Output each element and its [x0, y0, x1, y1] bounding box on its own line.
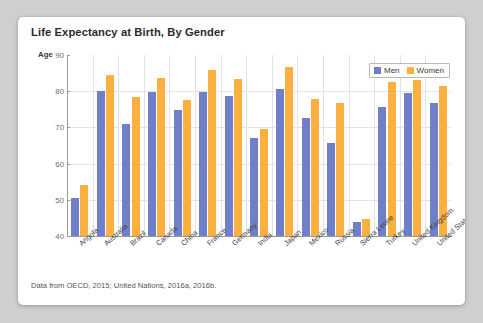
bar-women[interactable] [336, 103, 344, 236]
legend-swatch-icon [407, 67, 414, 74]
bar-women[interactable] [132, 97, 140, 236]
bar-group [272, 55, 298, 236]
bar-group [400, 55, 426, 236]
bar-men[interactable] [174, 110, 182, 236]
gridline-vertical [144, 55, 145, 236]
gridline-vertical [374, 55, 375, 236]
y-tick-label: 40 [55, 232, 64, 241]
y-tick-mark [67, 127, 70, 128]
bar-men[interactable] [97, 91, 105, 236]
bar-women[interactable] [413, 80, 421, 236]
y-tick-mark [67, 91, 70, 92]
bar-group [221, 55, 247, 236]
gridline-vertical [400, 55, 401, 236]
y-tick-label: 60 [55, 159, 64, 168]
bar-group [349, 55, 375, 236]
bar-men[interactable] [276, 89, 284, 236]
bar-group [297, 55, 323, 236]
y-axis-tick-labels: 908070605040 [36, 55, 64, 236]
y-tick-mark [67, 236, 70, 237]
bar-women[interactable] [208, 70, 216, 236]
legend-label: Men [384, 66, 400, 75]
chart-card: Life Expectancy at Birth, By Gender Age … [18, 17, 465, 305]
chart-legend: MenWomen [369, 63, 450, 78]
bar-men[interactable] [404, 93, 412, 236]
y-tick-label: 50 [55, 195, 64, 204]
bar-group [246, 55, 272, 236]
gridline-vertical [349, 55, 350, 236]
y-tick-label: 90 [55, 51, 64, 60]
bar-group [323, 55, 349, 236]
bar-group [93, 55, 119, 236]
x-axis-tick-labels: AngolaAustraliaBrazilCanadaChinaFranceGe… [67, 239, 452, 299]
bar-women[interactable] [260, 129, 268, 236]
bar-women[interactable] [106, 75, 114, 236]
gridline-vertical [195, 55, 196, 236]
gridline-vertical [93, 55, 94, 236]
legend-item-women[interactable]: Women [407, 66, 444, 75]
y-tick-mark [67, 55, 70, 56]
gridline-vertical [221, 55, 222, 236]
legend-item-men[interactable]: Men [374, 66, 400, 75]
y-tick-mark [67, 164, 70, 165]
bar-men[interactable] [71, 198, 79, 236]
bar-men[interactable] [225, 96, 233, 236]
bar-women[interactable] [183, 100, 191, 236]
y-tick-label: 80 [55, 87, 64, 96]
bar-group [144, 55, 170, 236]
plot-area [67, 55, 451, 236]
legend-label: Women [417, 66, 444, 75]
bar-women[interactable] [80, 185, 88, 236]
bar-women[interactable] [157, 78, 165, 236]
legend-swatch-icon [374, 67, 381, 74]
gridline-vertical [246, 55, 247, 236]
gridline-vertical [118, 55, 119, 236]
gridline-vertical [169, 55, 170, 236]
bar-women[interactable] [311, 99, 319, 236]
y-tick-label: 70 [55, 123, 64, 132]
bar-group [195, 55, 221, 236]
y-tick-mark [67, 200, 70, 201]
gridline-vertical [272, 55, 273, 236]
gridline-vertical [297, 55, 298, 236]
gridline-vertical [425, 55, 426, 236]
bar-men[interactable] [302, 118, 310, 236]
gridline-vertical [323, 55, 324, 236]
chart-footnote: Data from OECD, 2015; United Nations, 20… [31, 281, 216, 290]
bar-group [118, 55, 144, 236]
bar-men[interactable] [199, 92, 207, 236]
bar-group [374, 55, 400, 236]
bar-women[interactable] [234, 79, 242, 236]
bar-women[interactable] [285, 67, 293, 236]
bar-men[interactable] [327, 143, 335, 236]
bar-group [67, 55, 93, 236]
bar-men[interactable] [122, 124, 130, 236]
chart-title: Life Expectancy at Birth, By Gender [31, 26, 225, 38]
bar-group [169, 55, 195, 236]
bar-men[interactable] [148, 92, 156, 236]
